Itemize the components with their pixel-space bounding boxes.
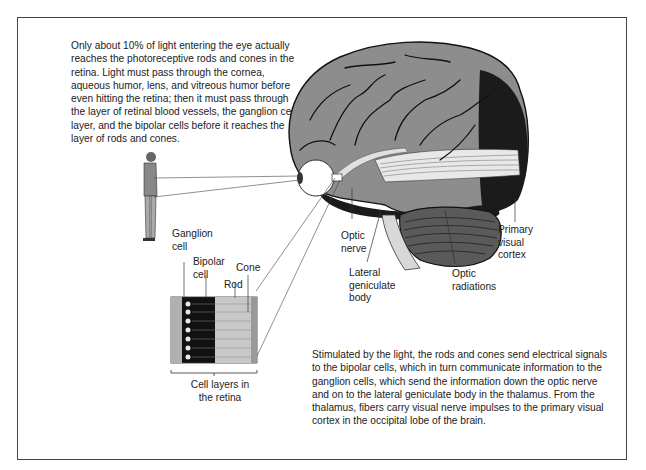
label-cone: Cone bbox=[236, 262, 260, 275]
label-rod: Rod bbox=[224, 279, 243, 292]
label-lateral-geniculate-body: Lateral geniculate body bbox=[349, 267, 395, 305]
label-optic-radiations: Optic radiations bbox=[452, 268, 496, 293]
label-primary-visual-cortex: Primary visual cortex bbox=[498, 224, 533, 262]
person-figure bbox=[143, 152, 157, 241]
label-bipolar-cell: Bipolar cell bbox=[193, 256, 225, 281]
label-cell-layers: Cell layers in the retina bbox=[180, 379, 260, 404]
label-optic-nerve: Optic nerve bbox=[341, 230, 366, 255]
label-ganglion-cell: Ganglion cell bbox=[172, 228, 213, 253]
brain-vision-illustration bbox=[0, 0, 646, 470]
brain-illustration bbox=[289, 42, 528, 270]
